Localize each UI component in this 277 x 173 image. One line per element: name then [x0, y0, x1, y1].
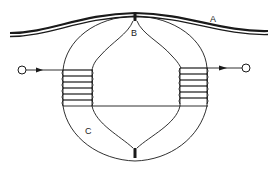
label-a: A: [210, 14, 216, 24]
right-coil: [179, 68, 208, 106]
output-terminal: [208, 64, 250, 72]
pole-bottom: [134, 148, 137, 158]
diagram-canvas: A B C: [0, 0, 277, 173]
label-c: C: [85, 126, 92, 136]
arrow-right-icon: [36, 68, 43, 73]
label-b: B: [131, 28, 137, 38]
pole-top-b: [134, 13, 137, 21]
ring-core-inner: [92, 21, 181, 148]
arrow-right-icon: [219, 66, 227, 71]
left-coil: [62, 70, 93, 106]
input-terminal: [18, 66, 63, 74]
